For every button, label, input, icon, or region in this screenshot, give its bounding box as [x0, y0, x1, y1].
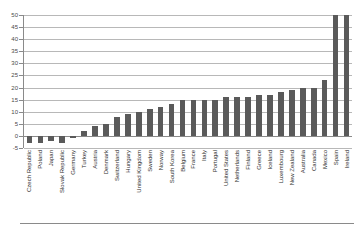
- plot-area: [24, 15, 352, 148]
- bar: [27, 136, 33, 143]
- y-tick-35: [19, 51, 23, 52]
- x-tick-label: Portugal: [212, 150, 218, 172]
- x-label-slot: Turkey: [79, 150, 90, 225]
- y-tick-label-15: 15: [0, 97, 18, 103]
- bar-slot: [243, 15, 254, 148]
- bar: [267, 95, 273, 136]
- bar-slot: [254, 15, 265, 148]
- x-tick-label: France: [190, 150, 196, 169]
- y-tick-20: [19, 88, 23, 89]
- x-tick-label: Austria: [92, 150, 98, 169]
- x-tick-label: Switzerland: [114, 150, 120, 181]
- x-label-slot: Italy: [199, 150, 210, 225]
- bar-slot: [265, 15, 276, 148]
- x-label-slot: Germany: [68, 150, 79, 225]
- x-tick-label: Ireland: [344, 150, 350, 168]
- bar: [202, 100, 208, 136]
- bar: [92, 126, 98, 136]
- bar: [333, 15, 339, 136]
- bar: [278, 92, 284, 136]
- x-tick-label: Sweden: [147, 150, 153, 172]
- x-label-slot: Hungary: [122, 150, 133, 225]
- bar: [59, 136, 65, 143]
- x-tick-label: Canada: [311, 150, 317, 171]
- y-tick-label-30: 30: [0, 60, 18, 66]
- y-tick-label--5: -5: [0, 145, 18, 151]
- y-tick-30: [19, 63, 23, 64]
- x-label-slot: Switzerland: [111, 150, 122, 225]
- x-label-slot: France: [188, 150, 199, 225]
- y-tick-label-10: 10: [0, 109, 18, 115]
- x-label-slot: Norway: [155, 150, 166, 225]
- x-label-slot: Czech Republic: [24, 150, 35, 225]
- x-label-slot: Austria: [90, 150, 101, 225]
- x-label-slot: Belgium: [177, 150, 188, 225]
- y-tick-label-45: 45: [0, 24, 18, 30]
- x-label-slot: United States: [221, 150, 232, 225]
- y-tick-label-40: 40: [0, 36, 18, 42]
- y-tick-10: [19, 112, 23, 113]
- x-tick-label: Slovak Republic: [59, 150, 65, 193]
- y-tick-label-5: 5: [0, 121, 18, 127]
- bar-slot: [297, 15, 308, 148]
- bar-slot: [144, 15, 155, 148]
- x-label-slot: Iceland: [265, 150, 276, 225]
- x-label-slot: Canada: [308, 150, 319, 225]
- bar: [169, 104, 175, 135]
- y-tick-15: [19, 100, 23, 101]
- bar: [245, 97, 251, 136]
- bar-slot: [199, 15, 210, 148]
- x-label-slot: Netherlands: [232, 150, 243, 225]
- x-label-slot: Luxembourg: [275, 150, 286, 225]
- x-tick-label: Czech Republic: [26, 150, 32, 192]
- x-tick-label: United Kingdom: [136, 150, 142, 193]
- bar: [147, 109, 153, 136]
- x-axis-tick-labels: Czech RepublicPolandJapanSlovak Republic…: [24, 150, 352, 225]
- bar-slot: [330, 15, 341, 148]
- x-label-slot: United Kingdom: [133, 150, 144, 225]
- bar: [125, 114, 131, 136]
- x-label-slot: Denmark: [101, 150, 112, 225]
- bar-slot: [46, 15, 57, 148]
- bar: [322, 80, 328, 136]
- y-tick-label-20: 20: [0, 85, 18, 91]
- bar: [256, 95, 262, 136]
- bar-slot: [308, 15, 319, 148]
- x-label-slot: Australia: [297, 150, 308, 225]
- bar-slot: [90, 15, 101, 148]
- chart-figure: 50454035302520151050-5 Czech RepublicPol…: [0, 0, 356, 225]
- bar-slot: [232, 15, 243, 148]
- bar-slot: [275, 15, 286, 148]
- y-tick-label-50: 50: [0, 12, 18, 18]
- y-tick-label-25: 25: [0, 72, 18, 78]
- x-label-slot: Slovak Republic: [57, 150, 68, 225]
- bar: [180, 100, 186, 136]
- bar-slot: [35, 15, 46, 148]
- x-tick-label: Greece: [256, 150, 262, 170]
- bar-slot: [210, 15, 221, 148]
- bar-slot: [111, 15, 122, 148]
- x-tick-label: Denmark: [103, 150, 109, 174]
- gridline--5: [24, 148, 352, 149]
- bar: [311, 88, 317, 136]
- y-axis-line: [23, 15, 24, 148]
- x-tick-label: Iceland: [267, 150, 273, 169]
- bar: [289, 90, 295, 136]
- bar: [158, 107, 164, 136]
- x-axis-line: [20, 223, 354, 224]
- bar: [300, 88, 306, 136]
- bar-slot: [188, 15, 199, 148]
- x-tick-label: Luxembourg: [278, 150, 284, 183]
- x-tick-label: South Korea: [169, 150, 175, 183]
- y-tick-50: [19, 15, 23, 16]
- bar: [114, 117, 120, 136]
- bar: [103, 124, 109, 136]
- x-label-slot: Mexico: [319, 150, 330, 225]
- bar: [191, 100, 197, 136]
- y-tick-label-35: 35: [0, 48, 18, 54]
- bar-slot: [101, 15, 112, 148]
- bar: [81, 131, 87, 136]
- y-tick-25: [19, 75, 23, 76]
- x-tick-label: United States: [223, 150, 229, 186]
- bar-slot: [57, 15, 68, 148]
